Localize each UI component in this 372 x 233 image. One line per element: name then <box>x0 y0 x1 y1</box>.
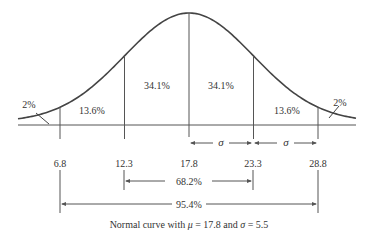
tick-label-6-8: 6.8 <box>54 158 67 169</box>
caption: Normal curve with μ = 17.8 and σ = 5.5 <box>110 219 269 230</box>
sigma-arrow-right: σ <box>254 136 317 148</box>
sigma-label-left: σ <box>218 136 224 148</box>
left-tail-pointer <box>36 113 49 124</box>
label-right-inner: 34.1% <box>208 80 234 91</box>
range-1sd-arrow: 68.2% <box>125 176 252 187</box>
range-1sd-label: 68.2% <box>176 176 202 187</box>
bell-curve <box>18 13 356 119</box>
tick-label-17-8: 17.8 <box>180 158 198 169</box>
label-left-inner: 34.1% <box>144 80 170 91</box>
range-2sd-arrow: 95.4% <box>61 199 317 210</box>
label-left-outer: 13.6% <box>79 105 105 116</box>
tick-label-12-3: 12.3 <box>115 158 133 169</box>
tick-label-28-8: 28.8 <box>309 158 327 169</box>
normal-curve-diagram: 2% 13.6% 34.1% 34.1% 13.6% 2% σ σ 6.8 12… <box>0 0 372 233</box>
range-2sd-label: 95.4% <box>176 199 202 210</box>
sigma-label-right: σ <box>283 136 289 148</box>
tick-label-23-3: 23.3 <box>244 158 262 169</box>
label-right-outer: 13.6% <box>274 105 300 116</box>
label-right-tail: 2% <box>333 97 346 108</box>
sigma-arrow-left: σ <box>190 136 252 148</box>
label-left-tail: 2% <box>22 99 35 110</box>
